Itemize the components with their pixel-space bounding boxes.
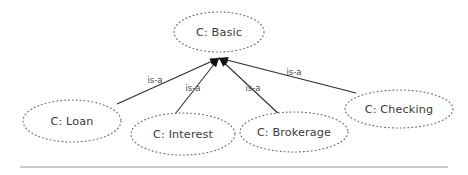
isa-edge-label-brokerage: is-a	[245, 83, 260, 93]
isa-edge-label-loan: is-a	[147, 75, 162, 85]
edge-group	[117, 58, 356, 118]
isa-edge-label-interest: is-a	[185, 83, 200, 93]
node-label-interest: C: Interest	[153, 128, 213, 141]
node-label-checking: C: Checking	[365, 103, 434, 116]
class-node-loan[interactable]: C: Loan	[23, 100, 121, 142]
isa-edge-label-checking: is-a	[286, 67, 301, 77]
isa-edge-loan[interactable]	[117, 58, 219, 104]
diagram-canvas: C: BasicC: LoanC: InterestC: BrokerageC:…	[0, 0, 468, 175]
node-label-loan: C: Loan	[50, 115, 93, 128]
arrowhead-group	[209, 55, 228, 67]
node-label-brokerage: C: Brokerage	[257, 126, 331, 139]
class-hierarchy-diagram: C: BasicC: LoanC: InterestC: BrokerageC:…	[0, 0, 468, 175]
node-group: C: BasicC: LoanC: InterestC: BrokerageC:…	[23, 12, 453, 155]
class-node-checking[interactable]: C: Checking	[345, 90, 453, 128]
node-label-basic: C: Basic	[196, 26, 242, 39]
class-node-interest[interactable]: C: Interest	[131, 113, 235, 155]
class-node-basic[interactable]: C: Basic	[174, 12, 264, 52]
class-node-brokerage[interactable]: C: Brokerage	[240, 112, 348, 152]
